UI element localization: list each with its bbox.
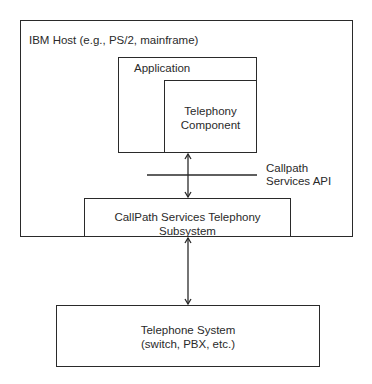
api-label-line1: Callpath: [266, 161, 308, 175]
telephone-system-line2: (switch, PBX, etc.): [57, 337, 319, 351]
telephony-component-line2: Component: [165, 118, 256, 132]
telephony-subsystem-box: CallPath Services Telephony Subsystem: [84, 198, 291, 237]
telephony-component-line1: Telephony: [165, 104, 256, 118]
architecture-diagram: IBM Host (e.g., PS/2, mainframe) Applica…: [0, 0, 372, 384]
arrow-subsystem-telephone-icon: [185, 238, 191, 304]
ibm-host-label: IBM Host (e.g., PS/2, mainframe): [29, 33, 198, 47]
application-label: Application: [134, 61, 190, 75]
api-label-line2: Services API: [266, 174, 331, 188]
telephony-subsystem-label: CallPath Services Telephony Subsystem: [85, 210, 290, 238]
telephone-system-line1: Telephone System: [57, 323, 319, 337]
telephony-component-box: Telephony Component: [164, 80, 257, 153]
telephone-system-box: Telephone System (switch, PBX, etc.): [56, 305, 320, 367]
